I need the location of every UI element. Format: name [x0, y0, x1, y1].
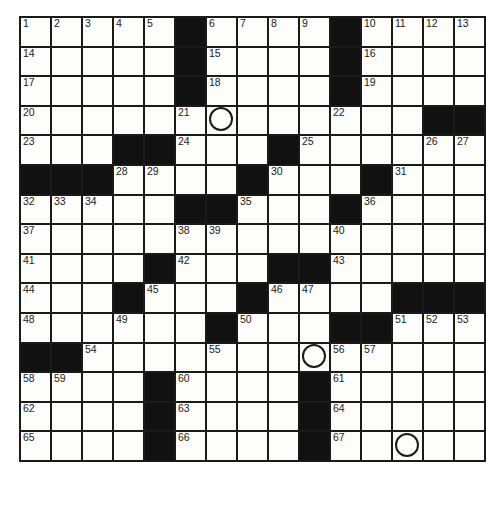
grid-cell[interactable]: 21 [176, 107, 207, 137]
grid-cell[interactable] [300, 196, 331, 226]
grid-cell[interactable] [393, 403, 424, 433]
grid-cell[interactable] [424, 77, 455, 107]
grid-cell[interactable] [269, 432, 300, 462]
grid-cell[interactable] [207, 432, 238, 462]
grid-cell[interactable]: 18 [207, 77, 238, 107]
grid-cell[interactable]: 49 [114, 314, 145, 344]
grid-cell[interactable] [52, 255, 83, 285]
grid-cell[interactable] [52, 77, 83, 107]
grid-cell[interactable] [83, 284, 114, 314]
grid-cell[interactable]: 26 [424, 136, 455, 166]
grid-cell[interactable] [52, 136, 83, 166]
grid-cell[interactable] [393, 107, 424, 137]
grid-cell[interactable] [393, 373, 424, 403]
grid-cell[interactable] [362, 107, 393, 137]
grid-cell[interactable] [52, 225, 83, 255]
grid-cell[interactable] [238, 225, 269, 255]
grid-cell[interactable]: 32 [21, 196, 52, 226]
grid-cell[interactable]: 9 [300, 18, 331, 48]
grid-cell[interactable] [176, 314, 207, 344]
grid-cell[interactable] [238, 403, 269, 433]
grid-cell[interactable]: 29 [145, 166, 176, 196]
grid-cell[interactable]: 19 [362, 77, 393, 107]
grid-cell[interactable]: 5 [145, 18, 176, 48]
grid-cell[interactable] [145, 196, 176, 226]
grid-cell[interactable]: 37 [21, 225, 52, 255]
grid-cell[interactable] [362, 373, 393, 403]
grid-cell[interactable] [52, 314, 83, 344]
grid-cell[interactable] [393, 432, 424, 462]
grid-cell[interactable]: 41 [21, 255, 52, 285]
grid-cell[interactable] [300, 107, 331, 137]
grid-cell[interactable] [207, 255, 238, 285]
grid-cell[interactable]: 52 [424, 314, 455, 344]
grid-cell[interactable]: 57 [362, 344, 393, 374]
grid-cell[interactable]: 45 [145, 284, 176, 314]
grid-cell[interactable]: 27 [455, 136, 486, 166]
grid-cell[interactable]: 12 [424, 18, 455, 48]
grid-cell[interactable]: 53 [455, 314, 486, 344]
grid-cell[interactable] [362, 284, 393, 314]
grid-cell[interactable] [238, 107, 269, 137]
grid-cell[interactable] [83, 48, 114, 78]
grid-cell[interactable] [269, 373, 300, 403]
grid-cell[interactable] [455, 373, 486, 403]
grid-cell[interactable] [52, 107, 83, 137]
grid-cell[interactable] [393, 196, 424, 226]
grid-cell[interactable] [83, 403, 114, 433]
grid-cell[interactable] [238, 373, 269, 403]
grid-cell[interactable] [238, 344, 269, 374]
grid-cell[interactable] [269, 314, 300, 344]
grid-cell[interactable]: 48 [21, 314, 52, 344]
grid-cell[interactable] [455, 196, 486, 226]
grid-cell[interactable] [300, 48, 331, 78]
grid-cell[interactable] [269, 77, 300, 107]
crossword-grid[interactable]: 1234567891011121314151617181920212223242… [19, 16, 486, 462]
grid-cell[interactable] [393, 77, 424, 107]
grid-cell[interactable] [52, 48, 83, 78]
grid-cell[interactable]: 50 [238, 314, 269, 344]
grid-cell[interactable]: 6 [207, 18, 238, 48]
grid-cell[interactable]: 31 [393, 166, 424, 196]
grid-cell[interactable] [176, 284, 207, 314]
grid-cell[interactable]: 1 [21, 18, 52, 48]
grid-cell[interactable] [207, 403, 238, 433]
grid-cell[interactable]: 46 [269, 284, 300, 314]
grid-cell[interactable] [331, 284, 362, 314]
grid-cell[interactable] [455, 344, 486, 374]
grid-cell[interactable] [269, 225, 300, 255]
grid-cell[interactable] [52, 432, 83, 462]
grid-cell[interactable]: 44 [21, 284, 52, 314]
grid-cell[interactable] [300, 77, 331, 107]
grid-cell[interactable] [83, 225, 114, 255]
grid-cell[interactable]: 47 [300, 284, 331, 314]
grid-cell[interactable] [114, 225, 145, 255]
grid-cell[interactable] [331, 166, 362, 196]
grid-cell[interactable] [424, 344, 455, 374]
grid-cell[interactable]: 13 [455, 18, 486, 48]
grid-cell[interactable]: 43 [331, 255, 362, 285]
grid-cell[interactable] [300, 225, 331, 255]
grid-cell[interactable] [269, 196, 300, 226]
grid-cell[interactable] [83, 255, 114, 285]
grid-cell[interactable] [238, 77, 269, 107]
grid-cell[interactable]: 28 [114, 166, 145, 196]
grid-cell[interactable]: 58 [21, 373, 52, 403]
grid-cell[interactable] [83, 432, 114, 462]
grid-cell[interactable] [455, 432, 486, 462]
grid-cell[interactable]: 61 [331, 373, 362, 403]
grid-cell[interactable] [83, 107, 114, 137]
grid-cell[interactable]: 66 [176, 432, 207, 462]
grid-cell[interactable] [269, 107, 300, 137]
grid-cell[interactable] [238, 136, 269, 166]
grid-cell[interactable] [114, 77, 145, 107]
grid-cell[interactable]: 35 [238, 196, 269, 226]
grid-cell[interactable] [207, 284, 238, 314]
grid-cell[interactable] [176, 344, 207, 374]
grid-cell[interactable] [145, 107, 176, 137]
grid-cell[interactable] [114, 373, 145, 403]
grid-cell[interactable]: 8 [269, 18, 300, 48]
grid-cell[interactable]: 55 [207, 344, 238, 374]
grid-cell[interactable] [114, 107, 145, 137]
grid-cell[interactable] [424, 225, 455, 255]
